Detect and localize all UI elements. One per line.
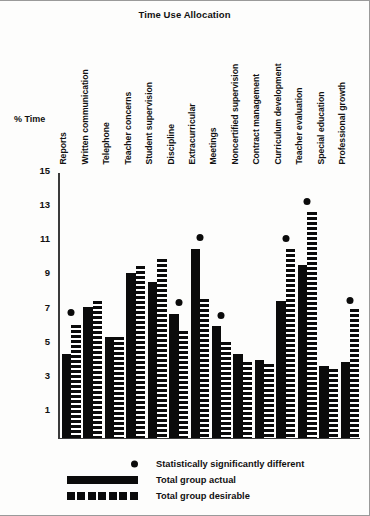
bar-actual: [169, 314, 178, 437]
chart-legend: Statistically significantly differentTot…: [62, 456, 362, 504]
significance-dot: [68, 309, 75, 316]
category-label: Noncertified supervision: [231, 64, 240, 165]
bar-group: [148, 173, 169, 438]
bar-desirable: [179, 331, 188, 437]
bar-desirable: [136, 266, 145, 437]
bar-actual: [83, 307, 92, 437]
bar-desirable: [307, 212, 316, 438]
y-tick-label: 9: [45, 267, 50, 278]
legend-row: Statistically significantly different: [62, 456, 362, 472]
legend-key: [62, 459, 152, 470]
bar-group: [298, 173, 319, 438]
significance-dot: [175, 299, 182, 306]
legend-dashed-bar-icon: [67, 492, 138, 500]
category-label: Special education: [317, 92, 326, 165]
bar-group: [62, 173, 83, 438]
bar-actual: [191, 249, 200, 437]
category-label: Professional growth: [338, 82, 347, 165]
category-label: Meetings: [210, 128, 219, 165]
category-label: Extracurricular: [188, 104, 197, 165]
chart-figure: Time Use Allocation % Time ReportsWritte…: [0, 0, 370, 516]
bar-series-container: [62, 173, 358, 438]
significance-dot: [282, 235, 289, 242]
bar-group: [83, 173, 104, 438]
category-axis-labels: ReportsWritten communicationTelephoneTea…: [62, 25, 362, 165]
bar-actual: [319, 366, 328, 438]
bar-actual: [276, 301, 285, 438]
bar-desirable: [114, 337, 123, 438]
significance-dot: [196, 234, 203, 241]
bar-actual: [148, 282, 157, 438]
legend-label: Statistically significantly different: [152, 459, 304, 469]
bar-desirable: [264, 364, 273, 438]
y-tick-label: 11: [40, 233, 50, 244]
category-label: Teacher evaluation: [296, 88, 305, 165]
bar-desirable: [221, 342, 230, 438]
category-label: Telephone: [103, 123, 112, 165]
bar-group: [255, 173, 276, 438]
legend-row: Total group desirable: [62, 488, 362, 504]
y-axis-caption: % Time: [14, 114, 45, 124]
chart-title: Time Use Allocation: [0, 9, 369, 20]
bar-desirable: [93, 301, 102, 438]
y-tick-label: 3: [45, 370, 50, 381]
bar-desirable: [71, 325, 80, 438]
significance-dot: [304, 198, 311, 205]
bar-desirable: [200, 299, 209, 438]
bar-actual: [212, 326, 221, 437]
bar-actual: [341, 362, 350, 437]
y-axis-line: [58, 173, 60, 439]
category-label: Discipline: [167, 124, 176, 165]
bar-group: [105, 173, 126, 438]
bar-group: [341, 173, 362, 438]
bar-group: [169, 173, 190, 438]
bar-actual: [126, 273, 135, 437]
legend-dot-icon: [131, 461, 138, 468]
category-label: Written communication: [81, 70, 90, 165]
y-tick-label: 13: [39, 198, 50, 209]
legend-key: [62, 475, 152, 486]
bar-desirable: [157, 259, 166, 437]
bar-desirable: [286, 249, 295, 437]
y-tick-label: 5: [45, 335, 50, 346]
category-label: Contract management: [253, 74, 262, 165]
bar-group: [319, 173, 340, 438]
bar-desirable: [350, 309, 359, 437]
legend-key: [62, 491, 152, 502]
category-label: Student supervision: [146, 82, 155, 165]
y-tick-label: 7: [45, 301, 50, 312]
y-tick-label: 1: [45, 404, 50, 415]
legend-solid-bar-icon: [67, 476, 138, 484]
category-label: Teacher concerns: [124, 92, 133, 165]
bar-actual: [233, 354, 242, 438]
bar-desirable: [243, 362, 252, 437]
bar-group: [233, 173, 254, 438]
category-label: Curriculum development: [274, 64, 283, 165]
category-label: Reports: [60, 133, 69, 165]
significance-dot: [218, 312, 225, 319]
bar-actual: [255, 360, 264, 437]
legend-row: Total group actual: [62, 472, 362, 488]
bar-actual: [105, 337, 114, 438]
bar-group: [126, 173, 147, 438]
bar-desirable: [329, 369, 338, 437]
bar-group: [191, 173, 212, 438]
legend-label: Total group desirable: [152, 491, 250, 501]
bar-group: [212, 173, 233, 438]
significance-dot: [346, 297, 353, 304]
plot-area: 15131197531: [58, 173, 358, 439]
x-axis-line: [58, 438, 360, 440]
bar-group: [276, 173, 297, 438]
y-tick-label: 15: [39, 164, 50, 175]
legend-label: Total group actual: [152, 475, 236, 485]
bar-actual: [62, 354, 71, 438]
bar-actual: [298, 265, 307, 438]
